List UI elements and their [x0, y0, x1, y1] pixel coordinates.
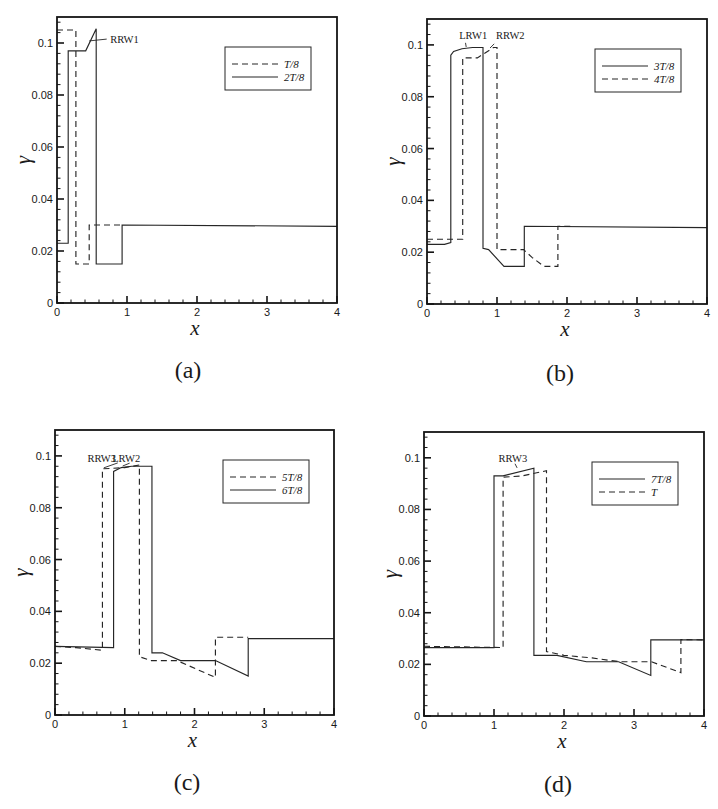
legend-label: 2T/8: [284, 71, 305, 83]
y-tick-label: 0.02: [30, 657, 51, 669]
y-tick-label: 0.04: [32, 193, 53, 205]
x-tick-label: 4: [704, 307, 710, 319]
x-tick-label: 4: [701, 719, 707, 731]
x-tick-label: 1: [494, 307, 500, 319]
y-tick-label: 0: [45, 709, 51, 721]
y-tick-label: 0.04: [399, 607, 420, 619]
x-axis-label: x: [556, 729, 567, 753]
x-axis-label: x: [189, 316, 200, 340]
y-tick-label: 0.08: [402, 91, 423, 103]
x-tick-label: 1: [122, 718, 128, 730]
y-tick-label: 0: [414, 710, 420, 722]
y-tick-label: 0.08: [32, 89, 53, 101]
x-axis-label: x: [187, 728, 198, 752]
x-tick-label: 1: [124, 306, 130, 318]
y-tick-label: 0.04: [30, 605, 51, 617]
panel-caption: (d): [544, 771, 572, 797]
legend-label: T/8: [284, 58, 299, 70]
panel-caption: (c): [174, 769, 201, 795]
x-tick-label: 3: [631, 719, 637, 731]
x-tick-label: 3: [261, 718, 267, 730]
figure-background: [0, 0, 718, 809]
x-tick-label: 4: [331, 718, 337, 730]
annotation-label: LRW2: [112, 453, 140, 464]
legend-label: T: [651, 486, 658, 498]
x-tick-label: 3: [634, 307, 640, 319]
y-tick-label: 0.1: [408, 39, 423, 51]
y-axis-label: γ: [9, 568, 33, 577]
y-tick-label: 0: [417, 298, 423, 310]
legend: 3T/84T/8: [595, 49, 681, 92]
x-tick-label: 4: [334, 306, 340, 318]
annotation-label: LRW1: [459, 30, 487, 41]
x-tick-label: 0: [421, 719, 427, 731]
legend: 7T/8T: [592, 462, 678, 505]
x-tick-label: 1: [491, 719, 497, 731]
y-tick-label: 0.02: [32, 245, 53, 257]
y-tick-label: 0.02: [402, 246, 423, 258]
legend-label: 3T/8: [653, 60, 675, 72]
figure-canvas: 0123400.020.040.060.080.1T/82T/8RRW1xγ(a…: [0, 0, 718, 809]
y-tick-label: 0.08: [30, 502, 51, 514]
legend: T/82T/8: [225, 47, 311, 90]
x-tick-label: 3: [264, 306, 270, 318]
legend: 5T/86T/8: [223, 460, 309, 503]
y-tick-label: 0: [47, 297, 53, 309]
y-tick-label: 0.1: [38, 37, 53, 49]
annotation-label: RRW3: [499, 453, 528, 464]
y-tick-label: 0.06: [32, 141, 53, 153]
y-tick-label: 0.06: [399, 555, 420, 567]
x-tick-label: 0: [54, 306, 60, 318]
y-tick-label: 0.08: [399, 503, 420, 515]
x-tick-label: 0: [424, 307, 430, 319]
y-tick-label: 0.1: [36, 450, 51, 462]
x-axis-label: x: [559, 317, 570, 341]
y-axis-label: γ: [11, 155, 35, 164]
legend-label: 6T/8: [282, 484, 303, 496]
annotation-label: RRW2: [496, 30, 525, 41]
y-tick-label: 0.1: [405, 452, 420, 464]
y-tick-label: 0.02: [399, 658, 420, 670]
panel-caption: (a): [175, 357, 202, 383]
y-axis-label: γ: [378, 569, 402, 578]
legend-label: 4T/8: [654, 73, 675, 85]
y-tick-label: 0.06: [402, 143, 423, 155]
panel-caption: (b): [546, 360, 574, 386]
x-tick-label: 0: [52, 718, 58, 730]
y-tick-label: 0.06: [30, 554, 51, 566]
legend-label: 7T/8: [651, 473, 672, 485]
y-axis-label: γ: [381, 157, 405, 166]
y-tick-label: 0.04: [402, 194, 423, 206]
legend-label: 5T/8: [282, 471, 303, 483]
annotation-label: RRW1: [110, 34, 139, 45]
